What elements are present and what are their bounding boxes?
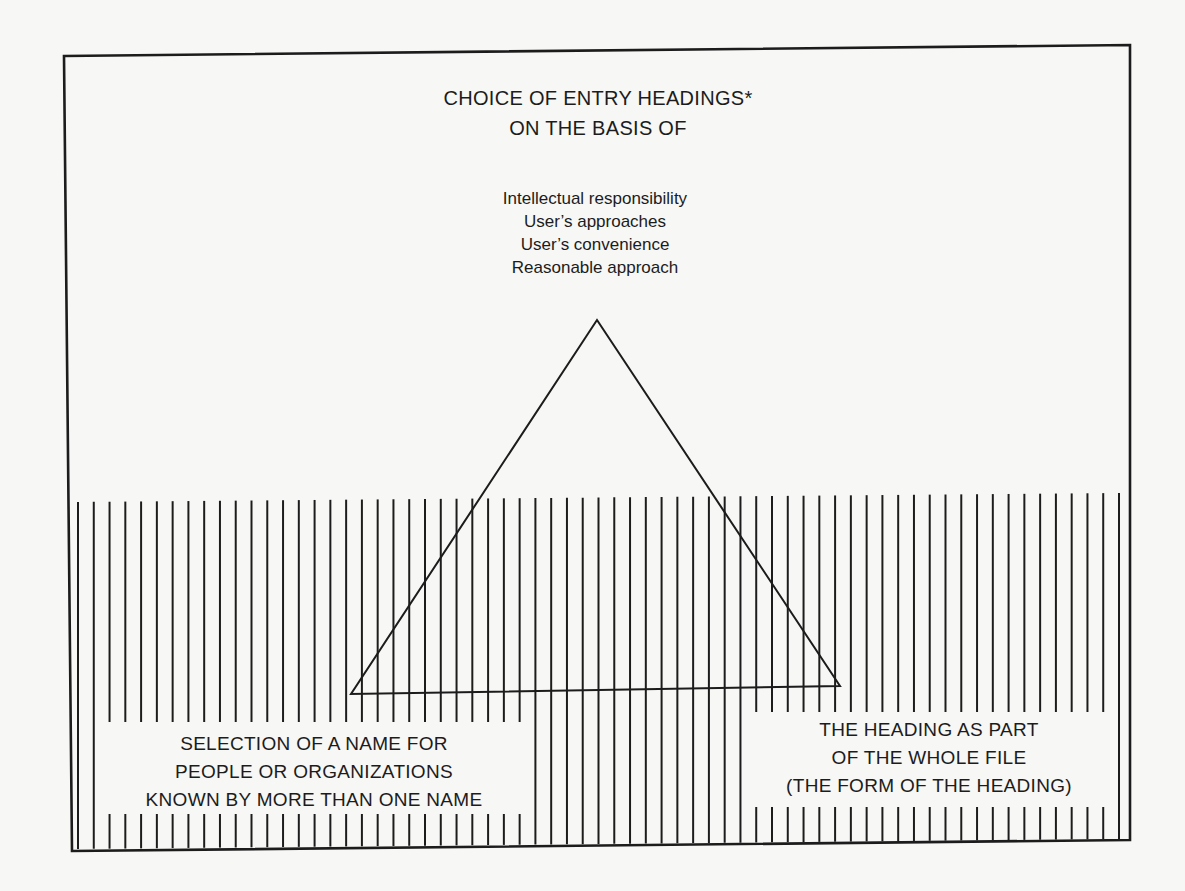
left-box-line: KNOWN BY MORE THAN ONE NAME [98, 786, 530, 814]
diagram-title: CHOICE OF ENTRY HEADINGS* ON THE BASIS O… [370, 83, 826, 143]
diagram-page: CHOICE OF ENTRY HEADINGS* ON THE BASIS O… [0, 0, 1185, 891]
right-box-label: THE HEADING AS PART OF THE WHOLE FILE (T… [752, 716, 1106, 800]
basis-item: Intellectual responsibility [440, 187, 750, 210]
title-line-1: CHOICE OF ENTRY HEADINGS* [370, 83, 826, 113]
bases-list: Intellectual responsibility User’s appro… [440, 187, 750, 279]
left-box-line: SELECTION OF A NAME FOR [98, 730, 530, 758]
basis-item: User’s convenience [440, 233, 750, 256]
basis-item: Reasonable approach [440, 256, 750, 279]
basis-item: User’s approaches [440, 210, 750, 233]
right-box-line: OF THE WHOLE FILE [752, 744, 1106, 772]
right-box-line: (THE FORM OF THE HEADING) [752, 772, 1106, 800]
left-box-label: SELECTION OF A NAME FOR PEOPLE OR ORGANI… [98, 730, 530, 814]
left-box-line: PEOPLE OR ORGANIZATIONS [98, 758, 530, 786]
right-box-line: THE HEADING AS PART [752, 716, 1106, 744]
title-line-2: ON THE BASIS OF [370, 113, 826, 143]
